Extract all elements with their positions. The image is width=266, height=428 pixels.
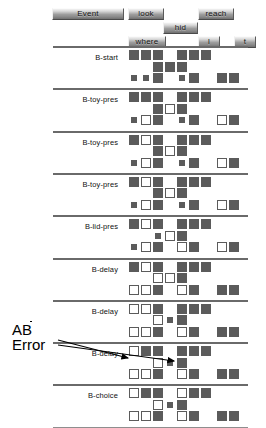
block-divider xyxy=(53,46,248,48)
grid-cell-open xyxy=(129,346,139,356)
grid-cell-filled xyxy=(129,262,139,272)
grid-cell-open xyxy=(217,158,227,168)
grid-cell-dot xyxy=(129,158,139,168)
grid-cell-filled xyxy=(177,177,187,187)
block-divider xyxy=(53,384,248,386)
grid-cell-filled xyxy=(129,50,139,60)
grid-cell-filled xyxy=(229,73,239,83)
grid-cell-filled xyxy=(189,327,199,337)
grid-cell-open xyxy=(217,200,227,210)
grid-cell-filled xyxy=(141,50,151,60)
grid-cell-filled xyxy=(229,115,239,125)
grid-cell-filled xyxy=(229,411,239,421)
grid-cell-open xyxy=(177,242,187,252)
grid-cell-filled xyxy=(177,219,187,229)
grid-cell-open xyxy=(129,304,139,314)
grid-cell-open xyxy=(129,411,139,421)
grid-cell-dot xyxy=(129,242,139,252)
grid-cell-filled xyxy=(201,177,211,187)
grid-cell-dot xyxy=(129,73,139,83)
grid-cell-dot xyxy=(129,200,139,210)
toolbar-button-event[interactable]: Event xyxy=(52,8,124,20)
toolbar-button-hid[interactable]: hid xyxy=(163,22,198,34)
block-divider xyxy=(53,88,248,90)
grid-cell-open xyxy=(165,273,175,283)
block-label: B-choice xyxy=(56,391,118,400)
block-label: B-toy-pres xyxy=(56,138,118,147)
grid-cell-open xyxy=(165,231,175,241)
grid-cell-open xyxy=(217,115,227,125)
toolbar-button-label: reach xyxy=(205,10,226,18)
block-divider xyxy=(53,300,248,302)
grid-cell-filled xyxy=(177,104,187,114)
grid-cell-open xyxy=(177,411,187,421)
grid-cell-filled xyxy=(229,158,239,168)
toolbar-button-label: where xyxy=(136,38,159,46)
grid-cell-filled xyxy=(177,231,187,241)
grid-cell-filled xyxy=(153,369,163,379)
grid-cell-open xyxy=(141,285,151,295)
grid-cell-open xyxy=(177,388,187,398)
grid-cell-dot xyxy=(177,115,187,125)
block-divider xyxy=(53,342,248,344)
toolbar-button-look[interactable]: look xyxy=(128,8,164,20)
grid-cell-filled xyxy=(189,177,199,187)
grid-cell-filled xyxy=(153,242,163,252)
grid-cell-filled xyxy=(177,146,187,156)
grid-cell-filled xyxy=(189,388,199,398)
block-label: B-toy-pres xyxy=(56,95,118,104)
grid-cell-filled xyxy=(153,285,163,295)
grid-cell-dot xyxy=(177,200,187,210)
grid-cell-open xyxy=(129,369,139,379)
grid-cell-filled xyxy=(129,135,139,145)
grid-cell-filled xyxy=(141,388,151,398)
grid-cell-filled xyxy=(153,346,163,356)
grid-cell-filled xyxy=(189,92,199,102)
grid-cell-open xyxy=(141,219,151,229)
grid-cell-open xyxy=(177,285,187,295)
grid-cell-filled xyxy=(177,92,187,102)
ab-error-line1: AB xyxy=(12,322,72,337)
grid-cell-filled xyxy=(177,262,187,272)
grid-cell-filled xyxy=(153,115,163,125)
grid-cell-filled xyxy=(153,104,163,114)
grid-cell-filled xyxy=(153,73,163,83)
grid-cell-open xyxy=(153,315,163,325)
grid-cell-filled xyxy=(165,62,175,72)
grid-cell-open xyxy=(165,146,175,156)
grid-cell-open xyxy=(141,158,151,168)
grid-cell-filled xyxy=(153,62,163,72)
toolbar-button-label: look xyxy=(138,10,153,18)
block-label: B-delay xyxy=(56,307,118,316)
toolbar-button-label: hid xyxy=(175,24,186,32)
grid-cell-filled xyxy=(177,273,187,283)
grid-cell-filled xyxy=(229,242,239,252)
grid-cell-open xyxy=(141,369,151,379)
grid-cell-filled xyxy=(153,146,163,156)
grid-cell-open xyxy=(141,262,151,272)
grid-cell-open xyxy=(129,285,139,295)
grid-cell-open xyxy=(141,327,151,337)
grid-cell-open xyxy=(141,135,151,145)
grid-cell-open xyxy=(165,104,175,114)
grid-cell-filled xyxy=(153,92,163,102)
grid-cell-filled xyxy=(201,346,211,356)
grid-cell-filled xyxy=(153,411,163,421)
grid-cell-filled xyxy=(201,304,211,314)
grid-cell-open xyxy=(141,242,151,252)
grid-cell-filled xyxy=(177,346,187,356)
grid-cell-filled xyxy=(189,242,199,252)
block-divider xyxy=(53,258,248,260)
grid-cell-dot xyxy=(141,73,151,83)
grid-cell-filled xyxy=(153,200,163,210)
grid-cell-filled xyxy=(229,200,239,210)
grid-cell-filled xyxy=(141,92,151,102)
toolbar-button-reach[interactable]: reach xyxy=(198,8,234,20)
grid-cell-filled xyxy=(189,115,199,125)
grid-cell-filled xyxy=(201,388,211,398)
grid-cell-filled xyxy=(141,346,151,356)
grid-cell-filled xyxy=(189,285,199,295)
grid-cell-dot xyxy=(153,231,163,241)
grid-cell-filled xyxy=(153,388,163,398)
ab-error-line2: Error xyxy=(12,337,72,352)
